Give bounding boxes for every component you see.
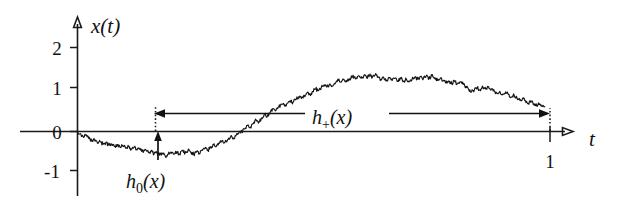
x-axis-title: t — [589, 127, 596, 151]
h0-base: h — [126, 170, 136, 192]
hplus-subscript: + — [322, 117, 330, 132]
h0-label: h0(x) — [126, 170, 166, 196]
y-tick-label-neg1: -1 — [44, 161, 60, 182]
plot-canvas: 2 1 0 -1 1 x(t) t h0(x) — [0, 0, 626, 224]
h0-arrow — [154, 131, 162, 160]
y-tick-label-0: 0 — [52, 122, 62, 143]
hplus-label: h+(x) — [312, 106, 352, 132]
x-axis-group — [20, 128, 573, 136]
y-tick-label-2: 2 — [52, 38, 62, 59]
x-tick-label-1: 1 — [545, 151, 555, 172]
hplus-left-arrowhead — [154, 109, 165, 117]
y-axis-group — [74, 17, 82, 196]
h0-arg: (x) — [143, 170, 166, 193]
hplus-arg: (x) — [330, 106, 353, 129]
hplus-base: h — [312, 106, 322, 128]
y-tick-label-1: 1 — [52, 78, 62, 99]
y-axis-title: x(t) — [90, 14, 120, 38]
brownian-motion-figure: 2 1 0 -1 1 x(t) t h0(x) — [0, 0, 626, 224]
hplus-label-text: h+(x) — [312, 106, 352, 132]
h0-subscript: 0 — [136, 181, 143, 196]
h0-arrow-head — [154, 131, 162, 141]
hplus-right-arrowhead — [539, 109, 550, 117]
h0-label-text: h0(x) — [126, 170, 166, 196]
